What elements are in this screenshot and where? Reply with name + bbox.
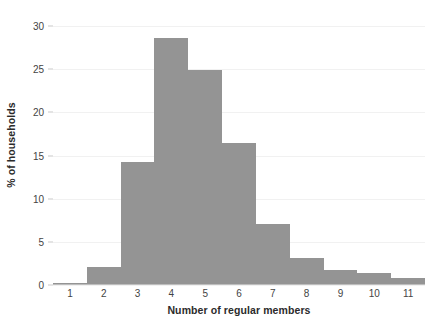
x-axis-tick-label: 9 [338, 288, 344, 299]
bar [290, 258, 324, 285]
y-axis-tick-label: 10 [33, 193, 44, 204]
x-axis-tick-label: 2 [101, 288, 107, 299]
y-axis-tick-label: 25 [33, 64, 44, 75]
x-axis-tick-label: 5 [202, 288, 208, 299]
x-axis-tick-labels: 1234567891011 [53, 288, 425, 304]
x-axis-tick-label: 6 [236, 288, 242, 299]
y-axis-tick-mark [48, 69, 53, 70]
y-axis-tick-mark [48, 155, 53, 156]
x-axis-tick-label: 11 [403, 288, 413, 299]
y-axis-tick-mark [48, 112, 53, 113]
x-axis-tick-label: 3 [135, 288, 141, 299]
x-axis-tick-label: 1 [67, 288, 73, 299]
y-axis-tick-label: 15 [33, 150, 44, 161]
histogram-chart: % of households 051015202530 12345678910… [0, 0, 445, 327]
x-axis-tick-label: 7 [270, 288, 276, 299]
bar [154, 38, 188, 285]
y-axis-tick-label: 5 [38, 236, 44, 247]
bar [87, 267, 121, 285]
x-axis-tick-label: 8 [304, 288, 310, 299]
x-axis-tick-label: 4 [169, 288, 175, 299]
y-axis-title: % of households [0, 0, 22, 290]
x-axis-title: Number of regular members [53, 304, 425, 316]
bar [256, 224, 290, 285]
y-axis-tick-label: 0 [38, 280, 44, 291]
bar [121, 162, 155, 285]
x-axis-line [53, 284, 425, 286]
bars-group [53, 26, 425, 285]
y-axis-tick-mark [48, 285, 53, 286]
gridline [53, 285, 425, 286]
y-axis-tick-mark [48, 26, 53, 27]
y-axis-title-label: % of households [5, 102, 17, 188]
plot-area [53, 26, 425, 285]
y-axis-tick-label: 20 [33, 107, 44, 118]
y-axis-tick-mark [48, 198, 53, 199]
bar [222, 143, 256, 285]
y-axis-tick-labels: 051015202530 [22, 0, 48, 327]
x-axis-tick-label: 10 [369, 288, 380, 299]
y-axis-tick-mark [48, 241, 53, 242]
y-axis-tick-label: 30 [33, 21, 44, 32]
bar [188, 70, 222, 285]
